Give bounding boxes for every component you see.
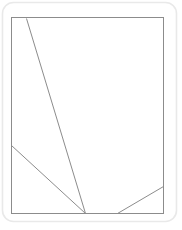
plot-rectangle [12, 18, 164, 214]
line-figure [0, 0, 182, 230]
canvas-root [0, 0, 182, 230]
